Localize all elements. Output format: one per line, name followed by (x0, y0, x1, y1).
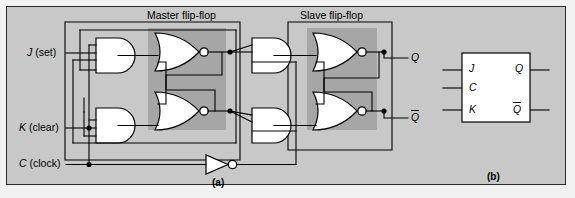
symbol-input-j: J (469, 62, 474, 74)
symbol-input-k: K (469, 103, 476, 115)
figure-jk-master-slave-flip-flop: Master flip-flop Slave flip-flop J (set)… (0, 0, 575, 198)
output-label-q: Q (411, 51, 419, 63)
junction-master-q (227, 49, 232, 54)
junction-slave-q (381, 49, 386, 54)
inverter-clock (206, 155, 237, 174)
symbol-output-qbar: Q (513, 103, 521, 115)
caption-b: (b) (487, 172, 500, 182)
caption-a: (a) (212, 178, 224, 188)
symbol-input-c: C (469, 81, 477, 93)
circuit-schematic (0, 0, 575, 198)
junction-clock (86, 162, 91, 167)
slave-section-title: Slave flip-flop (300, 10, 363, 21)
junction-master-qbar (227, 108, 232, 113)
master-section-title: Master flip-flop (147, 10, 216, 21)
output-label-qbar: Q (411, 111, 419, 123)
junction-slave-qbar (381, 108, 386, 113)
symbol-output-q: Q (515, 62, 523, 74)
input-label-c: C (clock) (19, 157, 60, 169)
input-label-k: K (clear) (19, 121, 59, 133)
input-label-j: J (set) (27, 46, 56, 58)
junction-clock-k (86, 125, 91, 130)
